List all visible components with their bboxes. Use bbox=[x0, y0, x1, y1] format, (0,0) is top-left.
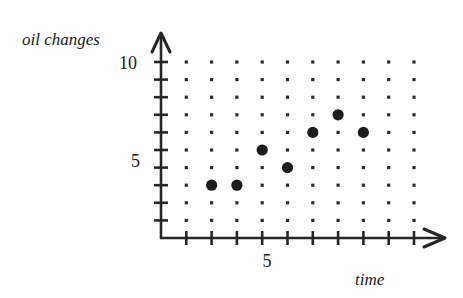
grid-dot bbox=[412, 201, 415, 204]
grid-dot bbox=[185, 219, 188, 222]
grid-dot bbox=[387, 60, 390, 63]
grid-dot bbox=[261, 113, 264, 116]
grid-dot bbox=[387, 113, 390, 116]
grid-dot bbox=[387, 219, 390, 222]
plot-canvas: oil changes time 10 5 5 bbox=[0, 0, 463, 298]
grid-dot bbox=[286, 148, 289, 151]
grid-dot bbox=[337, 96, 340, 99]
grid-dot bbox=[311, 96, 314, 99]
grid-dot bbox=[412, 113, 415, 116]
grid-dot bbox=[261, 60, 264, 63]
data-point bbox=[282, 162, 293, 173]
grid-dot bbox=[387, 96, 390, 99]
grid-dot bbox=[387, 131, 390, 134]
grid-dot bbox=[311, 166, 314, 169]
grid-dot bbox=[362, 113, 365, 116]
grid-dot bbox=[387, 166, 390, 169]
grid-dot bbox=[362, 96, 365, 99]
grid-dot bbox=[261, 78, 264, 81]
grid-dot bbox=[286, 184, 289, 187]
grid-dot bbox=[210, 113, 213, 116]
grid-dot bbox=[362, 184, 365, 187]
data-point bbox=[358, 127, 369, 138]
grid-dot bbox=[286, 96, 289, 99]
grid-dot bbox=[235, 219, 238, 222]
grid-dot bbox=[337, 166, 340, 169]
grid-dot bbox=[235, 96, 238, 99]
grid-dot bbox=[311, 78, 314, 81]
grid-dot bbox=[337, 201, 340, 204]
grid-dot bbox=[210, 201, 213, 204]
grid-dot bbox=[286, 131, 289, 134]
grid-dot bbox=[337, 131, 340, 134]
grid-dot bbox=[286, 201, 289, 204]
grid-dot bbox=[261, 184, 264, 187]
grid-dot bbox=[185, 131, 188, 134]
y-axis-group bbox=[152, 33, 170, 238]
grid-dot bbox=[235, 201, 238, 204]
data-point bbox=[307, 127, 318, 138]
grid-dot bbox=[311, 219, 314, 222]
grid-dot bbox=[235, 78, 238, 81]
x-axis-title: time bbox=[355, 270, 385, 289]
scatter-plot-figure: oil changes time 10 5 5 bbox=[0, 0, 463, 298]
grid-dot bbox=[185, 184, 188, 187]
grid-dot bbox=[286, 78, 289, 81]
grid-dot bbox=[412, 78, 415, 81]
grid-dot bbox=[412, 131, 415, 134]
grid-dot bbox=[261, 219, 264, 222]
grid-dot bbox=[210, 78, 213, 81]
y-axis-title: oil changes bbox=[22, 30, 100, 49]
grid-dot bbox=[362, 166, 365, 169]
grid-dot bbox=[286, 60, 289, 63]
data-point bbox=[333, 109, 344, 120]
grid-dot bbox=[235, 148, 238, 151]
grid-dot bbox=[210, 60, 213, 63]
grid-dot bbox=[337, 78, 340, 81]
grid-dot bbox=[412, 96, 415, 99]
y-tick-label-10: 10 bbox=[119, 53, 137, 73]
data-point bbox=[206, 180, 217, 191]
x-axis-group bbox=[161, 229, 445, 247]
grid-dot bbox=[362, 148, 365, 151]
grid-dot bbox=[235, 131, 238, 134]
grid-dot bbox=[185, 148, 188, 151]
grid-dot-lattice bbox=[185, 60, 416, 222]
data-point bbox=[231, 180, 242, 191]
grid-dot bbox=[337, 219, 340, 222]
grid-dot bbox=[311, 184, 314, 187]
grid-dot bbox=[311, 60, 314, 63]
grid-dot bbox=[412, 184, 415, 187]
grid-dot bbox=[412, 219, 415, 222]
grid-dot bbox=[210, 148, 213, 151]
grid-dot bbox=[235, 113, 238, 116]
grid-dot bbox=[337, 60, 340, 63]
grid-dot bbox=[261, 201, 264, 204]
y-tick-label-5: 5 bbox=[131, 151, 140, 171]
data-point bbox=[257, 144, 268, 155]
grid-dot bbox=[185, 96, 188, 99]
grid-dot bbox=[261, 131, 264, 134]
grid-dot bbox=[362, 60, 365, 63]
grid-dot bbox=[311, 113, 314, 116]
grid-dot bbox=[337, 184, 340, 187]
grid-dot bbox=[412, 148, 415, 151]
grid-dot bbox=[387, 78, 390, 81]
grid-dot bbox=[185, 113, 188, 116]
grid-dot bbox=[387, 201, 390, 204]
grid-dot bbox=[185, 60, 188, 63]
grid-dot bbox=[362, 219, 365, 222]
grid-dot bbox=[235, 60, 238, 63]
grid-dot bbox=[412, 166, 415, 169]
grid-dot bbox=[185, 166, 188, 169]
grid-dot bbox=[387, 148, 390, 151]
grid-dot bbox=[337, 148, 340, 151]
x-tick-label-5: 5 bbox=[263, 251, 272, 271]
grid-dot bbox=[235, 166, 238, 169]
grid-dot bbox=[261, 166, 264, 169]
grid-dot bbox=[412, 60, 415, 63]
grid-dot bbox=[210, 219, 213, 222]
grid-dot bbox=[210, 131, 213, 134]
grid-dot bbox=[286, 219, 289, 222]
grid-dot bbox=[185, 78, 188, 81]
